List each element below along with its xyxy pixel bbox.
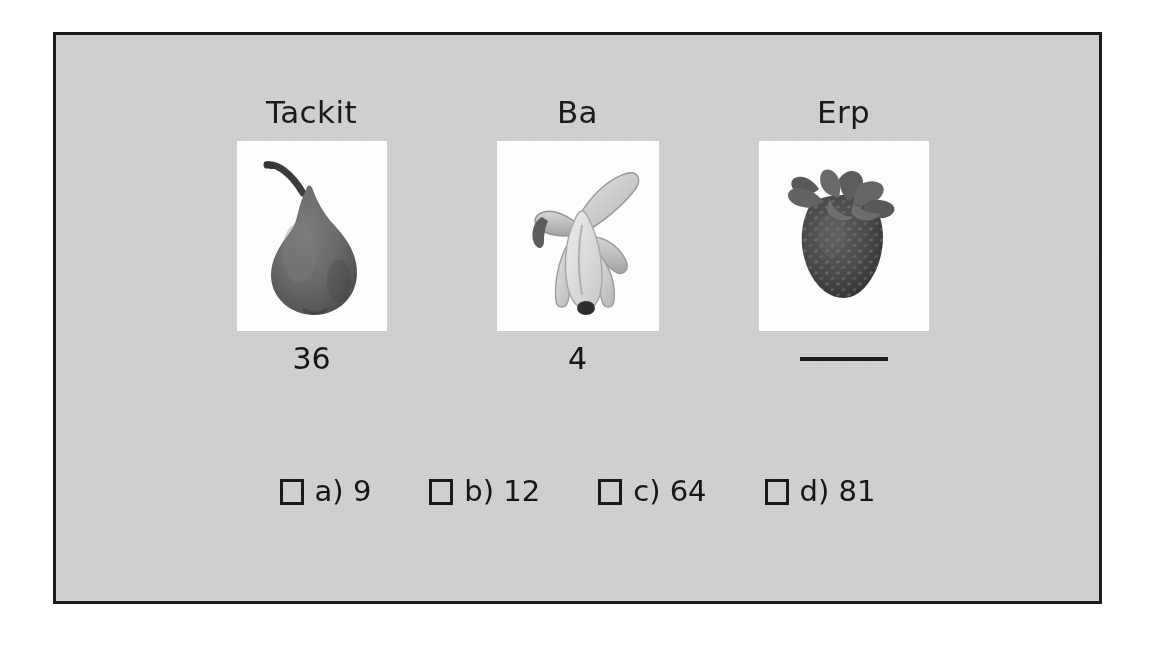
- checkbox-a[interactable]: [280, 479, 304, 505]
- item-value-ba: 4: [568, 342, 587, 376]
- option-label-b: b) 12: [464, 477, 540, 506]
- option-label-d: d) 81: [800, 477, 876, 506]
- option-b[interactable]: b) 12: [429, 477, 540, 506]
- item-erp: Erp: [754, 97, 934, 376]
- option-d[interactable]: d) 81: [765, 477, 876, 506]
- option-c[interactable]: c) 64: [598, 477, 706, 506]
- option-label-c: c) 64: [633, 477, 706, 506]
- image-card-erp: [759, 141, 929, 331]
- option-label-a: a) 9: [315, 477, 372, 506]
- worksheet-page: Tackit: [0, 0, 1159, 647]
- image-card-ba: [497, 141, 659, 331]
- answer-options-row: a) 9 b) 12 c) 64 d) 81: [56, 477, 1099, 506]
- items-row: Tackit: [56, 97, 1099, 376]
- item-value-tackit: 36: [292, 342, 330, 376]
- item-label-erp: Erp: [817, 97, 870, 128]
- checkbox-c[interactable]: [598, 479, 622, 505]
- item-tackit: Tackit: [222, 97, 402, 376]
- answer-blank-erp[interactable]: [800, 342, 888, 376]
- answer-blank-line: [800, 357, 888, 361]
- item-ba: Ba: [488, 97, 668, 376]
- item-label-tackit: Tackit: [266, 97, 357, 128]
- image-card-tackit: [237, 141, 387, 331]
- checkbox-b[interactable]: [429, 479, 453, 505]
- checkbox-d[interactable]: [765, 479, 789, 505]
- option-a[interactable]: a) 9: [280, 477, 372, 506]
- pear-image: [247, 149, 377, 324]
- strawberry-image: [769, 149, 919, 324]
- banana-image: [508, 151, 648, 321]
- item-label-ba: Ba: [557, 97, 598, 128]
- quiz-frame: Tackit: [53, 32, 1102, 604]
